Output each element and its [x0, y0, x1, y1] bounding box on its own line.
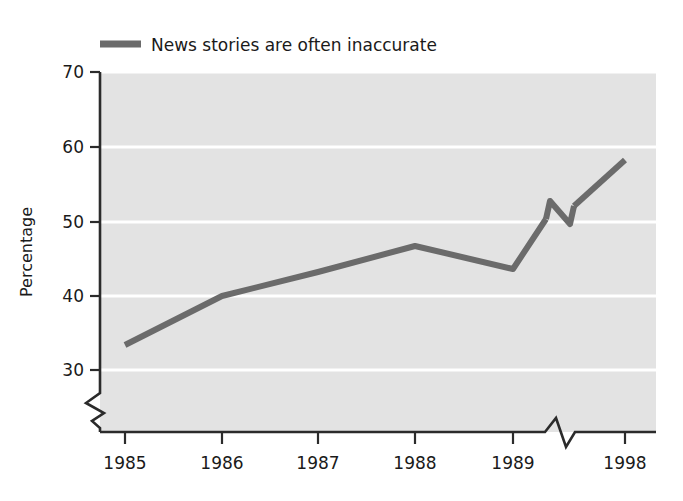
chart-legend: News stories are often inaccurate: [100, 35, 437, 55]
line-chart: 70 60 50 40 30 Percentage 1985 1986 1987…: [0, 0, 683, 501]
y-tick-label-70: 70: [62, 62, 84, 82]
legend-label-news-stories-inaccurate: News stories are often inaccurate: [151, 35, 437, 55]
x-tick-label-1988: 1988: [393, 453, 436, 473]
x-tick-label-1985: 1985: [103, 453, 146, 473]
x-tick-label-1998: 1998: [603, 453, 646, 473]
y-tick-label-30: 30: [62, 360, 84, 380]
y-axis-ticks: [90, 72, 100, 370]
x-tick-label-1986: 1986: [200, 453, 243, 473]
x-axis-ticks: [125, 432, 625, 444]
y-axis-title: Percentage: [17, 207, 36, 297]
plot-background: [100, 72, 656, 432]
chart-container: 70 60 50 40 30 Percentage 1985 1986 1987…: [0, 0, 683, 501]
y-tick-label-50: 50: [62, 212, 84, 232]
y-tick-label-40: 40: [62, 286, 84, 306]
x-tick-label-1987: 1987: [296, 453, 339, 473]
y-axis-line: [86, 72, 104, 432]
x-tick-label-1989: 1989: [491, 453, 534, 473]
y-tick-label-60: 60: [62, 137, 84, 157]
